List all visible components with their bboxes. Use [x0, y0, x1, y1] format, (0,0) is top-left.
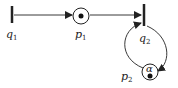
svg-text:p1: p1	[75, 28, 87, 42]
arc-p2-q2	[125, 23, 143, 68]
svg-text:q2: q2	[139, 32, 151, 46]
token	[148, 74, 153, 79]
petri-net-diagram: q1 p1 q2 α p2	[0, 0, 178, 88]
svg-text:α: α	[146, 63, 153, 74]
svg-text:q1: q1	[6, 28, 18, 42]
transition-q1: q1	[6, 6, 18, 42]
token	[79, 14, 84, 19]
place-p1: p1	[73, 8, 89, 42]
transition-q2: q2	[139, 4, 151, 46]
svg-text:p2: p2	[121, 70, 133, 84]
